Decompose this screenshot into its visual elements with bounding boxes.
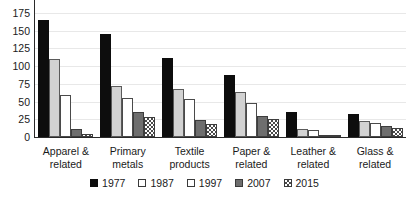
bar-1977 — [348, 114, 359, 137]
bar-1987 — [173, 89, 184, 137]
legend-label: 2015 — [296, 178, 319, 189]
legend-item-2015[interactable]: 2015 — [284, 178, 319, 189]
bar-2015 — [392, 128, 403, 137]
bar-2007 — [195, 120, 206, 137]
bar-2015 — [206, 124, 217, 137]
bar-2007 — [133, 112, 144, 137]
x-axis-line — [34, 137, 406, 138]
bar-1977 — [100, 34, 111, 137]
category-label-line: related — [344, 158, 406, 171]
bar-1977 — [286, 112, 297, 137]
bar-2015 — [82, 134, 93, 137]
bar-1987 — [359, 121, 370, 137]
legend-swatch-icon — [90, 179, 98, 187]
category-label: Primarymetals — [97, 145, 159, 173]
legend-label: 1987 — [150, 178, 173, 189]
bar-1987 — [235, 92, 246, 137]
bar-1997 — [184, 99, 195, 137]
bar-2015 — [330, 135, 341, 137]
y-tick: 75 — [18, 79, 30, 89]
legend-label: 1977 — [102, 178, 125, 189]
bar-1987 — [49, 59, 60, 137]
bar-1997 — [308, 130, 319, 137]
y-tick: 50 — [18, 97, 30, 107]
bar-1997 — [246, 103, 257, 137]
legend-label: 2007 — [247, 178, 270, 189]
category-label-line: metals — [97, 158, 159, 171]
category-label: Glass &related — [344, 145, 406, 173]
y-tick: 125 — [12, 43, 30, 53]
bar-group — [35, 0, 97, 137]
category-label-line: related — [282, 158, 344, 171]
legend-item-1987[interactable]: 1987 — [138, 178, 173, 189]
bar-1997 — [60, 95, 71, 138]
bar-1997 — [122, 98, 133, 137]
bar-groups — [35, 0, 406, 137]
legend-swatch-icon — [235, 179, 243, 187]
bar-1977 — [224, 75, 235, 137]
category-label: Paper &related — [220, 145, 282, 173]
legend-swatch-icon — [138, 179, 146, 187]
bar-2007 — [257, 116, 268, 137]
bar-1987 — [111, 86, 122, 137]
bar-group — [97, 0, 159, 137]
legend-swatch-icon — [284, 179, 292, 187]
y-tick: 100 — [12, 61, 30, 71]
category-label-line: Primary — [97, 145, 159, 158]
bar-2007 — [381, 126, 392, 137]
category-label: Apparel &related — [35, 145, 97, 173]
bar-group — [220, 0, 282, 137]
legend-item-1997[interactable]: 1997 — [187, 178, 222, 189]
bar-chart: 175 150 125 100 75 50 25 0 Apparel &rela… — [0, 0, 409, 199]
category-label-line: products — [159, 158, 221, 171]
chart-legend: 19771987199720072015 — [0, 174, 409, 192]
category-label-line: related — [220, 158, 282, 171]
category-label-line: related — [35, 158, 97, 171]
category-labels: Apparel &relatedPrimarymetalsTextileprod… — [35, 145, 406, 173]
legend-item-2007[interactable]: 2007 — [235, 178, 270, 189]
bar-1987 — [297, 129, 308, 138]
bar-1977 — [162, 58, 173, 137]
category-label-line: Paper & — [220, 145, 282, 158]
category-label: Leather &related — [282, 145, 344, 173]
bar-1977 — [38, 20, 49, 137]
y-tick: 0 — [24, 132, 30, 142]
category-label-line: Textile — [159, 145, 221, 158]
plot-wrap: 175 150 125 100 75 50 25 0 — [0, 0, 409, 145]
category-label-line: Glass & — [344, 145, 406, 158]
legend-label: 1997 — [199, 178, 222, 189]
bar-2007 — [319, 135, 330, 137]
y-tick: 150 — [12, 26, 30, 36]
category-label-line: Leather & — [282, 145, 344, 158]
legend-item-1977[interactable]: 1977 — [90, 178, 125, 189]
y-tick: 25 — [18, 114, 30, 124]
y-tick: 175 — [12, 8, 30, 18]
bar-group — [282, 0, 344, 137]
bar-1997 — [370, 123, 381, 137]
bar-group — [344, 0, 406, 137]
y-axis: 175 150 125 100 75 50 25 0 — [0, 0, 34, 145]
bar-2015 — [268, 119, 279, 137]
category-label-line: Apparel & — [35, 145, 97, 158]
bar-2015 — [144, 117, 155, 137]
bar-2007 — [71, 129, 82, 138]
category-label: Textileproducts — [159, 145, 221, 173]
plot-area — [34, 0, 406, 145]
bar-group — [159, 0, 221, 137]
legend-swatch-icon — [187, 179, 195, 187]
